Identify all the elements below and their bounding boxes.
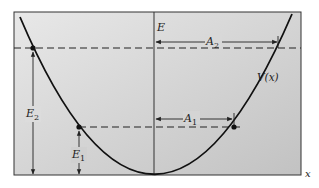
- potential-well-diagram: E x V(x) A2 A1 E2 E1: [0, 0, 319, 188]
- position-axis-label: x: [305, 168, 311, 179]
- potential-label: V(x): [257, 71, 279, 83]
- turning-point-low-left: [76, 124, 81, 129]
- turning-point-high-left: [30, 45, 35, 50]
- turning-point-low-right: [231, 124, 236, 129]
- energy-axis-label: E: [156, 21, 165, 34]
